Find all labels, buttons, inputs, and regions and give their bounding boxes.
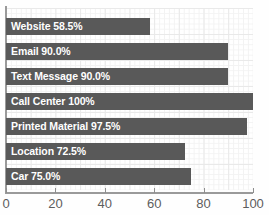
x-tick-mark — [55, 188, 56, 193]
x-tick-label: 40 — [98, 196, 112, 211]
bar-label: Location 72.5% — [11, 143, 86, 160]
bar-label: Website 58.5% — [11, 18, 82, 35]
x-tick-mark — [105, 188, 106, 193]
bar-row: Location 72.5% — [0, 143, 269, 160]
bar-row: Car 75.0% — [0, 168, 269, 185]
bar-label: Printed Material 97.5% — [11, 118, 120, 135]
bar-row: Printed Material 97.5% — [0, 118, 269, 135]
x-tick-label: 100 — [242, 196, 264, 211]
bar-label: Text Message 90.0% — [11, 68, 110, 85]
x-tick-label: 80 — [196, 196, 210, 211]
bar-row: Text Message 90.0% — [0, 68, 269, 85]
x-tick-mark — [154, 188, 155, 193]
bar-label: Call Center 100% — [11, 93, 95, 110]
bar-row: Website 58.5% — [0, 18, 269, 35]
bar-row: Call Center 100% — [0, 93, 269, 110]
x-axis-line — [5, 192, 253, 194]
x-tick-mark — [253, 188, 254, 193]
bar-label: Car 75.0% — [11, 168, 60, 185]
x-tick-label: 20 — [48, 196, 62, 211]
x-tick-mark — [204, 188, 205, 193]
x-tick-label: 0 — [2, 196, 9, 211]
bar-label: Email 90.0% — [11, 43, 71, 60]
bar-chart: Website 58.5%Email 90.0%Text Message 90.… — [0, 0, 269, 215]
x-tick-label: 60 — [147, 196, 161, 211]
x-tick-mark — [6, 188, 7, 193]
bar-row: Email 90.0% — [0, 43, 269, 60]
